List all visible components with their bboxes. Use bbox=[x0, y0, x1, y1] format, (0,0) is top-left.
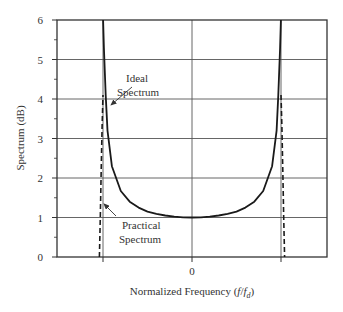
annotation-ideal-spectrum: Ideal Spectrum bbox=[111, 72, 160, 105]
annotation-practical-spectrum: Practical Spectrum bbox=[104, 204, 162, 245]
y-tick-label: 2 bbox=[38, 172, 44, 184]
y-tick-label: 5 bbox=[38, 54, 44, 66]
grid-lines bbox=[57, 20, 327, 257]
x-axis-tick-labels: 0 bbox=[189, 265, 195, 277]
practical-spectrum-right-edge bbox=[281, 95, 285, 257]
spectrum-chart: 0123456 0 Ideal Spectrum Practical Spect… bbox=[0, 0, 343, 312]
y-axis-label: Spectrum (dB) bbox=[14, 105, 27, 170]
practical-spectrum-left-edge bbox=[99, 95, 103, 257]
annotation-ideal-line2: Spectrum bbox=[117, 86, 160, 98]
y-tick-label: 6 bbox=[38, 14, 44, 26]
minor-ticks bbox=[52, 20, 281, 262]
y-axis-tick-labels: 0123456 bbox=[38, 14, 44, 263]
annotation-practical-line1: Practical bbox=[122, 219, 160, 231]
x-axis-label: Normalized Frequency (f/fd) bbox=[130, 285, 255, 300]
y-tick-label: 1 bbox=[38, 212, 44, 224]
annotation-practical-line2: Spectrum bbox=[119, 233, 162, 245]
y-tick-label: 3 bbox=[38, 133, 44, 145]
y-tick-label: 4 bbox=[38, 93, 44, 105]
y-tick-label: 0 bbox=[38, 251, 44, 263]
x-tick-label: 0 bbox=[189, 265, 195, 277]
annotation-practical-arrow bbox=[104, 204, 116, 216]
annotation-ideal-line1: Ideal bbox=[126, 72, 148, 84]
